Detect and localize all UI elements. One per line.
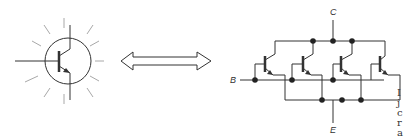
transistor-3 <box>333 41 361 100</box>
base-label: B <box>230 75 236 85</box>
emitter-label: E <box>330 125 337 135</box>
collector-lead <box>59 25 70 56</box>
cropped-caption-text: I j c r a <box>397 88 403 137</box>
parallel-transistor-circuit <box>240 20 400 123</box>
transistor-1 <box>255 41 285 100</box>
glowing-transistor-symbol <box>15 18 104 104</box>
collector-label: C <box>330 7 337 17</box>
diagram-canvas: C B E <box>0 0 408 137</box>
transistor-4 <box>371 41 400 100</box>
double-arrow-icon <box>121 52 211 70</box>
transistor-2 <box>292 41 322 100</box>
